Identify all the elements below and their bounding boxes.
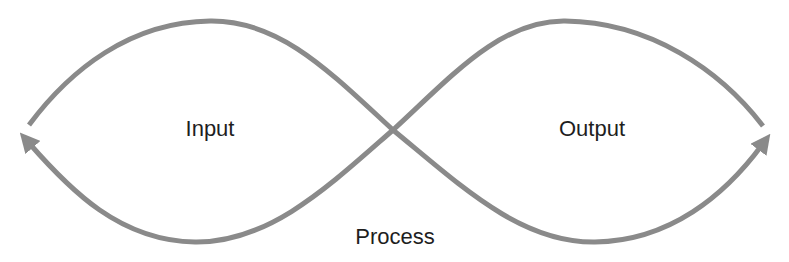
input-label: Input <box>186 118 235 140</box>
process-label: Process <box>355 226 434 248</box>
infinity-diagram: Input Output Process <box>0 0 789 262</box>
left-upper-arc <box>29 21 393 130</box>
left-lower-arc-arrow <box>29 130 393 242</box>
right-lower-arc-arrow <box>393 130 762 242</box>
output-label: Output <box>559 118 625 140</box>
infinity-loop-graphic <box>0 0 789 262</box>
right-upper-arc <box>393 21 763 130</box>
